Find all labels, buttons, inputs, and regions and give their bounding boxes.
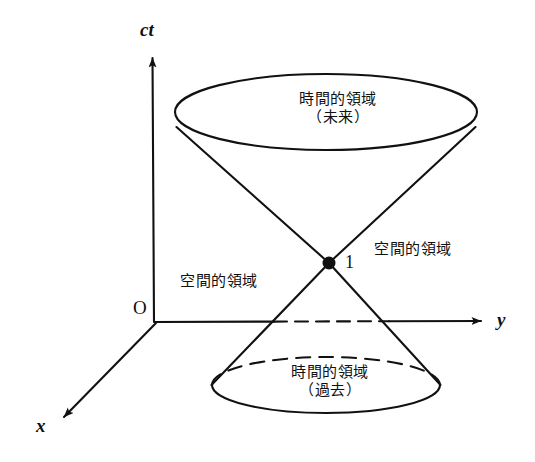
ct-axis-label: ct [140, 18, 154, 41]
ct-axis-line [153, 58, 155, 322]
past-region-label: 時間的領域 （過去） [260, 363, 400, 400]
x-axis-line [64, 323, 156, 417]
future-region-title: 時間的領域 [268, 90, 408, 108]
future-region-subtitle: （未来） [268, 108, 408, 126]
apex-point-label: 1 [345, 252, 354, 274]
lightcone-figure: ct x y O 1 時間的領域 （未来） 時間的領域 （過去） 空間的領域 空… [0, 0, 535, 462]
future-region-label: 時間的領域 （未来） [268, 90, 408, 127]
origin-label: O [133, 296, 147, 319]
past-region-subtitle: （過去） [260, 381, 400, 399]
past-region-title: 時間的領域 [260, 363, 400, 381]
spacelike-region-label-left: 空間的領域 [180, 272, 258, 290]
y-axis-label: y [497, 308, 505, 331]
spacelike-region-label-right: 空間的領域 [374, 240, 452, 258]
x-axis-label: x [36, 414, 46, 437]
future-cone-left-edge [177, 127, 330, 263]
apex-event-point [323, 257, 336, 270]
